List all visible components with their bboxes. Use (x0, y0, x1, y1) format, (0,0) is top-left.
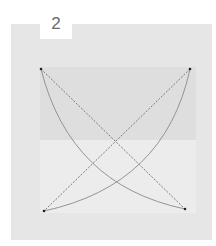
corner-dot-top-right (189, 68, 192, 71)
fold-lines (0, 0, 216, 246)
dashed-diagonal-tr-bl (44, 69, 190, 211)
corner-dot-bottom-right (184, 208, 187, 211)
dashed-diagonal-tl-br (41, 69, 185, 209)
corner-dot-top-left (40, 68, 43, 71)
corner-dot-bottom-left (43, 210, 46, 213)
